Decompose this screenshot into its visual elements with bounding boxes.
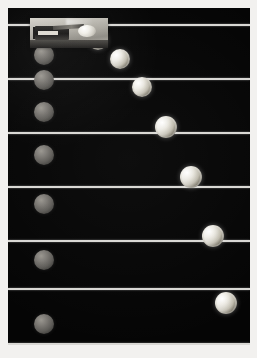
dropped-ball-flash-6 — [34, 250, 54, 270]
projectile-ball-flash-6 — [202, 225, 224, 247]
photographic-plate — [8, 8, 250, 345]
dropped-ball-flash-5 — [34, 194, 54, 214]
reference-line-7 — [8, 343, 250, 345]
dropped-ball-flash-1 — [34, 45, 54, 65]
reference-line-4 — [8, 186, 250, 188]
projectile-ball-flash-7 — [215, 292, 237, 314]
launcher-loaded-ball — [78, 25, 95, 37]
projectile-ball-flash-3 — [132, 77, 152, 97]
dropped-ball-flash-3 — [34, 102, 54, 122]
projectile-ball-flash-5 — [180, 166, 202, 188]
reference-line-6 — [8, 288, 250, 290]
projectile-ball-flash-4 — [155, 116, 177, 138]
dropped-ball-flash-2 — [34, 70, 54, 90]
dropped-ball-flash-4 — [34, 145, 54, 165]
launcher-shadow — [30, 40, 108, 48]
launcher-apparatus — [30, 18, 108, 48]
dropped-ball-flash-7 — [34, 314, 54, 334]
projectile-ball-flash-2 — [110, 49, 130, 69]
launcher-slot — [38, 31, 58, 35]
reference-line-3 — [8, 132, 250, 134]
photograph-frame — [0, 0, 257, 358]
